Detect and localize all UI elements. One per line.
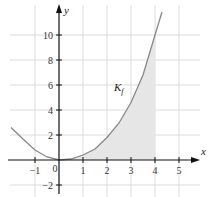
x-axis-label: x <box>200 145 206 157</box>
graph: −1 0 1 2 3 4 5 10 8 6 4 2 −2 x y Kf <box>0 0 209 197</box>
y-axis-arrow-icon <box>56 4 62 13</box>
y-tick-label: 6 <box>48 80 53 91</box>
x-tick-label: 5 <box>177 165 182 176</box>
y-axis-label: y <box>63 4 69 16</box>
x-tick-label: 4 <box>153 165 158 176</box>
y-tick-label: −2 <box>42 180 53 191</box>
x-axis-arrow-icon <box>191 157 200 163</box>
x-tick-label: 1 <box>81 165 86 176</box>
y-tick-label: 2 <box>48 130 53 141</box>
x-tick-label: 0 <box>53 163 58 174</box>
x-tick-label: −1 <box>30 165 41 176</box>
y-tick-label: 8 <box>48 55 53 66</box>
x-tick-label: 2 <box>105 165 110 176</box>
x-tick-label: 3 <box>129 165 134 176</box>
curve-label: Kf <box>113 81 125 96</box>
y-tick-label: 4 <box>48 105 53 116</box>
y-tick-label: 10 <box>43 30 53 41</box>
